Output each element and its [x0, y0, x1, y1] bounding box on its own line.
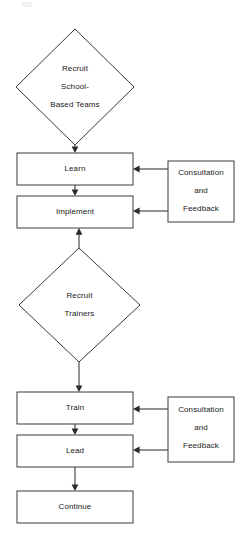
node-recruit-trainers[interactable]	[19, 248, 140, 362]
node-implement[interactable]	[17, 196, 133, 228]
node-consultation-feedback-bottom[interactable]	[168, 397, 234, 462]
flowchart-canvas: Recruit School- Based Teams Learn Implem…	[0, 0, 252, 543]
node-lead[interactable]	[17, 435, 133, 467]
node-recruit-school-based-teams[interactable]	[16, 29, 134, 145]
arrowhead-down-lead	[72, 428, 79, 435]
arrowhead-down-implement	[72, 189, 79, 196]
node-consultation-feedback-top[interactable]	[168, 161, 234, 222]
arrowhead-down-learn	[72, 146, 79, 153]
node-learn[interactable]	[17, 153, 133, 185]
node-continue[interactable]	[17, 491, 133, 523]
arrowhead-left-train	[133, 406, 140, 413]
arrowhead-up-implement	[76, 228, 83, 235]
arrowhead-down-train	[76, 385, 83, 392]
arrowhead-down-continue	[72, 484, 79, 491]
arrowhead-left-learn	[133, 166, 140, 173]
flowchart-svg	[0, 0, 252, 543]
arrowhead-left-lead	[133, 447, 140, 454]
arrowhead-left-implement	[133, 208, 140, 215]
node-train[interactable]	[17, 392, 133, 424]
